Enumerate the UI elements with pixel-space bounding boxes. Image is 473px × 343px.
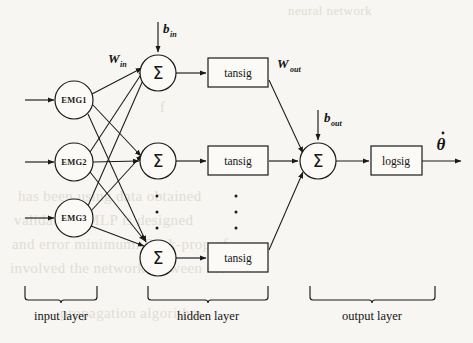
hidden-layer-ellipsis <box>156 195 238 230</box>
activation-box-logsig-label: logsig <box>382 155 410 168</box>
figure-canvas: neural networkfhas been using data obtai… <box>0 0 473 343</box>
hidden-to-output-connections <box>269 80 303 250</box>
hidden-sum-node-2-sigma-icon: Σ <box>153 151 164 171</box>
input-node-emg1-label: EMG1 <box>61 95 86 105</box>
hidden-sum-node-1[interactable]: Σ <box>140 55 176 91</box>
input-node-emg2-label: EMG2 <box>61 157 86 167</box>
layer-braces <box>25 286 435 303</box>
bias-out-label-subscript: out <box>331 119 342 128</box>
brace-input-layer <box>25 286 97 303</box>
activation-box-tansig-3[interactable]: tansig <box>208 243 268 272</box>
input-node-emg1[interactable]: EMG1 <box>55 81 93 119</box>
weight-label-w-out: W out <box>277 56 301 74</box>
output-sum-node[interactable]: Σ <box>300 143 336 179</box>
hidden-activation-boxes: tansig tansig tansig <box>208 58 268 272</box>
brace-output-layer <box>310 286 435 303</box>
ellipsis-dot-tansig-3 <box>235 227 238 230</box>
input-node-emg3-label: EMG3 <box>61 213 86 223</box>
bias-in-group: b in <box>158 21 177 52</box>
input-node-emg2[interactable]: EMG2 <box>55 143 93 181</box>
hidden-sum-node-3-sigma-icon: Σ <box>153 248 164 268</box>
edge-emg1-sum3 <box>88 114 146 242</box>
layer-captions: input layer hidden layer output layer <box>34 309 403 323</box>
caption-input-layer: input layer <box>34 309 89 323</box>
output-signal-theta-label: θ <box>437 135 446 154</box>
bias-out-group: b out <box>318 110 342 140</box>
activation-box-tansig-1-label: tansig <box>224 67 252 80</box>
weight-label-w-out-base: W <box>277 56 290 71</box>
edge-emg2-sum2 <box>93 161 139 162</box>
bias-out-label-base: b <box>324 110 331 125</box>
hidden-sum-node-3[interactable]: Σ <box>140 240 176 276</box>
edge-tansig1-output-sum <box>269 80 303 153</box>
edge-emg1-sum1 <box>92 68 142 94</box>
activation-box-tansig-2-label: tansig <box>224 155 252 168</box>
bias-in-label-base: b <box>163 21 170 36</box>
activation-box-tansig-3-label: tansig <box>224 252 252 265</box>
weight-label-w-in-subscript: in <box>120 60 127 69</box>
hidden-sum-node-1-sigma-icon: Σ <box>153 63 164 83</box>
weight-label-w-out-subscript: out <box>290 65 301 74</box>
edge-tansig3-output-sum <box>269 172 303 250</box>
bias-in-label-subscript: in <box>170 30 177 39</box>
ellipsis-dot-tansig-2 <box>235 211 238 214</box>
caption-hidden-layer: hidden layer <box>177 309 240 323</box>
ellipsis-dot-tansig-1 <box>235 195 238 198</box>
input-arrows <box>25 100 54 218</box>
hidden-layer-sum-nodes: Σ Σ Σ <box>140 55 176 276</box>
activation-box-tansig-2[interactable]: tansig <box>208 146 268 175</box>
output-signal-group: θ <box>422 132 461 161</box>
network-diagram: EMG1 EMG2 EMG3 W in b in Σ <box>0 0 473 343</box>
activation-box-tansig-1[interactable]: tansig <box>208 58 268 87</box>
hidden-sum-node-2[interactable]: Σ <box>140 143 176 179</box>
input-layer-nodes: EMG1 EMG2 EMG3 <box>55 81 93 237</box>
output-signal-dot-accent-icon <box>442 132 445 135</box>
input-node-emg3[interactable]: EMG3 <box>55 199 93 237</box>
output-sum-node-sigma-icon: Σ <box>313 151 324 171</box>
caption-output-layer: output layer <box>342 309 403 323</box>
ellipsis-dot-sum-1 <box>156 195 159 198</box>
input-to-hidden-connections <box>88 68 147 246</box>
ellipsis-dot-sum-2 <box>156 211 159 214</box>
weight-label-w-in: W in <box>108 51 127 69</box>
activation-box-logsig[interactable]: logsig <box>371 146 422 175</box>
brace-hidden-layer <box>148 286 268 303</box>
sum-to-activation-arrows <box>176 73 206 258</box>
ellipsis-dot-sum-3 <box>156 227 159 230</box>
